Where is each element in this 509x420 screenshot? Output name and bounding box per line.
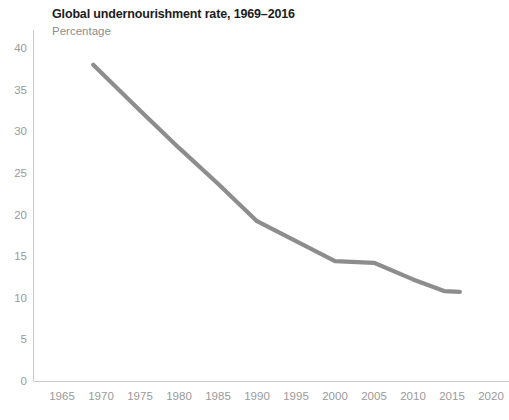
y-axis-tick-label: 25 [14, 167, 27, 179]
x-axis-tick-label: 1995 [283, 390, 309, 402]
x-axis-tick-labels: 1965197019751980198519901995200020052010… [49, 390, 504, 402]
x-axis-tick-label: 1990 [244, 390, 270, 402]
x-axis-tick-label: 1980 [166, 390, 192, 402]
y-axis-tick-label: 30 [14, 125, 27, 137]
x-axis-tick-label: 2000 [322, 390, 348, 402]
y-axis-tick-label: 40 [14, 42, 27, 54]
x-axis-tick-label: 1970 [88, 390, 114, 402]
y-axis: 0510152025303540 [14, 30, 33, 387]
x-axis-tick-label: 2005 [361, 390, 387, 402]
y-axis-tick-label: 20 [14, 209, 27, 221]
y-axis-tick-label: 0 [21, 375, 27, 387]
x-axis: 1965197019751980198519901995200020052010… [34, 382, 509, 403]
y-axis-tick-label: 15 [14, 250, 27, 262]
line-chart-plot: 0510152025303540 19651970197519801985199… [0, 0, 509, 420]
x-axis-tick-label: 1975 [127, 390, 153, 402]
y-axis-tick-labels: 0510152025303540 [14, 42, 27, 387]
y-axis-tick-label: 10 [14, 292, 27, 304]
x-axis-tick-label: 1985 [205, 390, 231, 402]
x-axis-tick-label: 2020 [478, 390, 504, 402]
y-axis-tick-label: 35 [14, 84, 27, 96]
data-series-group [93, 65, 460, 292]
chart-container: Global undernourishment rate, 1969–2016 … [0, 0, 509, 420]
x-axis-tick-label: 1965 [49, 390, 75, 402]
x-axis-tick-label: 2015 [439, 390, 465, 402]
data-line-undernourishment-rate [93, 65, 460, 292]
x-axis-tick-label: 2010 [400, 390, 426, 402]
y-axis-tick-label: 5 [21, 333, 27, 345]
